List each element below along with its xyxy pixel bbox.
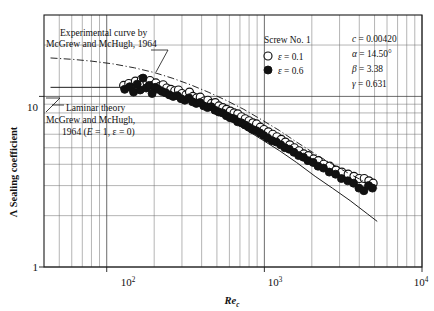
laminar-annotation-line1: Laminar theory [66,102,126,113]
parameter-c: c = 0.00420 [352,34,397,44]
legend-entry-0-value: = 0.1 [282,52,304,62]
laminar-annotation-line3: 1964 (E = 1, ε = 0) [62,126,135,138]
y-tick-label-1: 1 [33,261,39,273]
parameter-beta: β = 3.38 [351,64,383,74]
y-axis-label: Λ Sealing coefficient [8,126,19,217]
figure-container: Experimental curve by McGrew and McHugh,… [0,0,434,311]
parameter-gamma: γ = 0.631 [352,79,387,89]
legend-entry-0: ε = 0.1 [278,52,304,62]
experimental-annotation-line2: McGrew and McHugh, 1964 [46,38,157,49]
legend-entry-1-value: = 0.6 [282,66,304,76]
y-tick-label-10: 10 [27,101,39,113]
legend-entry-1: ε = 0.6 [278,66,304,76]
laminar-line3-prefix: 1964 ( [62,126,87,138]
parameter-alpha: α = 14.50° [352,49,392,59]
laminar-line3-mid: = 1, ε = 0) [93,126,135,138]
log-log-scatter-chart: Experimental curve by McGrew and McHugh,… [0,0,434,311]
experimental-annotation-line1: Experimental curve by [60,27,148,38]
legend-marker-filled-circle [264,66,272,74]
legend-marker-open-circle [264,52,272,60]
data-point [368,184,376,192]
laminar-annotation-line2: McGrew and McHugh, [46,114,135,125]
legend-title: Screw No. 1 [264,35,311,45]
data-point [139,74,147,82]
